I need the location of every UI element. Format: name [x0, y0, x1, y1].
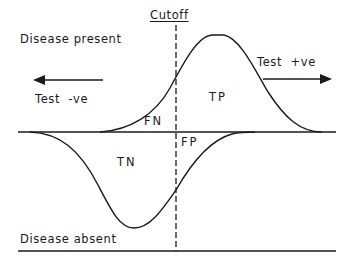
cutoff-label: Cutoff [150, 9, 189, 22]
test-distribution-diagram: Cutoff Disease present Test -ve Test +ve… [0, 0, 351, 267]
arrow-left-icon [33, 75, 103, 85]
test-positive-label: Test +ve [257, 56, 316, 69]
disease-absent-curve [30, 132, 255, 228]
false-negative-label: FN [144, 115, 163, 128]
disease-present-label: Disease present [20, 33, 122, 46]
true-positive-label: TP [209, 91, 227, 104]
arrow-right-icon [263, 74, 332, 84]
true-negative-label: TN [117, 156, 137, 169]
test-negative-label: Test -ve [35, 93, 88, 106]
false-positive-label: FP [181, 136, 199, 149]
disease-absent-label: Disease absent [20, 233, 117, 246]
disease-present-curve [100, 35, 322, 132]
